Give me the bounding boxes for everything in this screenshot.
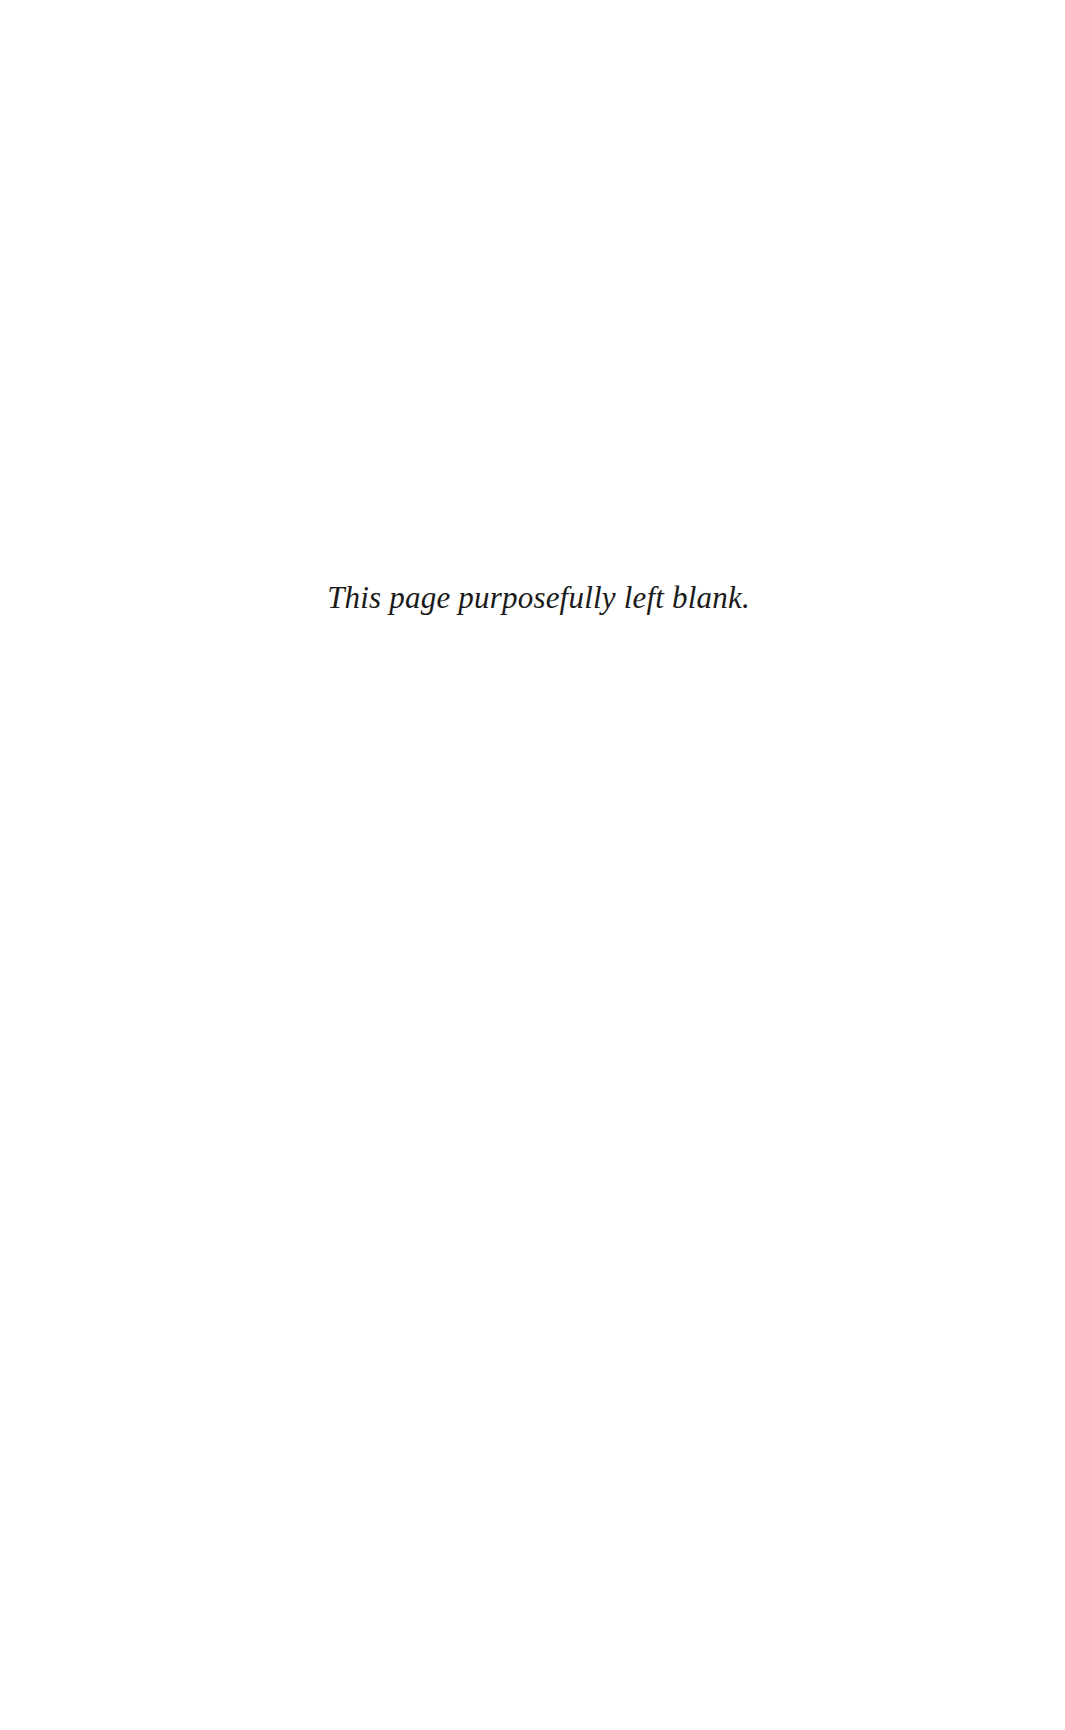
document-page: This page purposefully left blank. bbox=[0, 0, 1065, 1730]
blank-page-notice: This page purposefully left blank. bbox=[0, 578, 1065, 618]
